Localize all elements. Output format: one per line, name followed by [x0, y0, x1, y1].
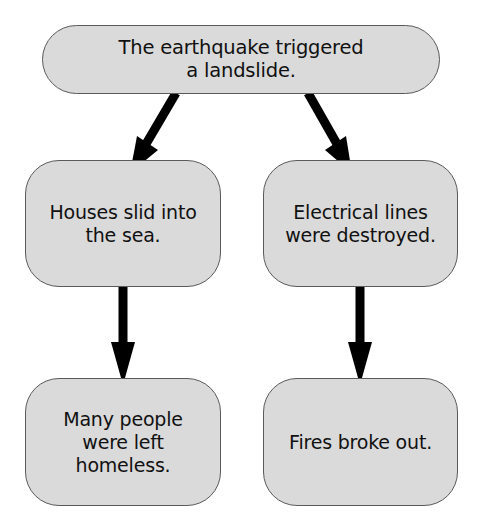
- node-text: Houses slid into the sea.: [49, 201, 196, 247]
- node-people-homeless: Many people were left homeless.: [25, 378, 221, 506]
- arrow-mid-right-to-bot-right: [348, 286, 372, 385]
- node-fires-broke-out: Fires broke out.: [263, 378, 458, 506]
- cause-effect-diagram: The earthquake triggered a landslide. Ho…: [0, 0, 486, 528]
- node-text: Fires broke out.: [289, 431, 432, 454]
- node-earthquake-landslide: The earthquake triggered a landslide.: [42, 25, 440, 94]
- node-text: Many people were left homeless.: [63, 408, 183, 477]
- node-houses-slid: Houses slid into the sea.: [25, 160, 221, 287]
- arrow-mid-left-to-bot-left: [111, 286, 135, 385]
- node-text: The earthquake triggered a landslide.: [119, 36, 364, 82]
- node-electrical-lines-destroyed: Electrical lines were destroyed.: [263, 160, 458, 287]
- node-text: Electrical lines were destroyed.: [285, 201, 436, 247]
